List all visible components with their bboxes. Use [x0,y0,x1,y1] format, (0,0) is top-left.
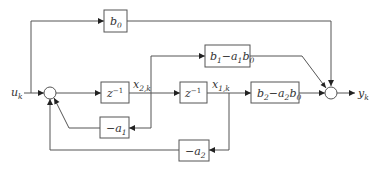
arrow-into-b1 [199,53,205,59]
state-label-x1k: x1,k [212,78,230,93]
arrow-b0-into-sum2 [328,80,334,86]
wire-x2-to-a1 [129,93,151,128]
input-summing-junction [44,87,56,99]
wire-a1-to-sum1 [54,98,100,128]
arrow-into-b0 [98,18,104,24]
arrow-b1-into-sum2 [321,82,327,88]
block-neg-a2: −a2 [179,140,209,161]
block-b1-minus-a1b0: b1−a1b0 [205,45,254,67]
arrow-into-a1 [129,125,135,131]
wire-to-b0 [31,21,104,93]
wire-x1-to-a2 [209,93,229,150]
arrow-into-b2 [245,90,251,96]
arrow-b2-into-sum2 [319,90,325,96]
output-label-yk: yk [357,87,369,102]
block-b2-minus-a2b0: b2−a2b0 [251,82,301,103]
block-neg-a1: −a1 [100,117,129,138]
block-diagram: b0 b1−a1b0 z−1 z−1 b2−a2b0 −a1 −a2 uk yk… [0,0,375,171]
block-b2-minus-a2b0-label: b2−a2b0 [257,87,301,102]
block-z-inverse-1: z−1 [101,82,129,103]
arrow-output [349,90,355,96]
block-b0: b0 [104,10,127,32]
arrow-into-z1 [95,90,101,96]
arrow-into-a2 [209,147,215,153]
arrow-into-z2 [174,90,180,96]
arrow-input-to-sum1 [38,90,44,96]
input-label-uk: uk [11,86,23,101]
state-label-x2k: x2,k [133,78,151,93]
block-b1-minus-a1b0-label: b1−a1b0 [210,50,254,65]
arrow-a2-into-sum1 [47,99,53,105]
block-z-inverse-2: z−1 [180,82,207,103]
output-summing-junction [325,87,337,99]
